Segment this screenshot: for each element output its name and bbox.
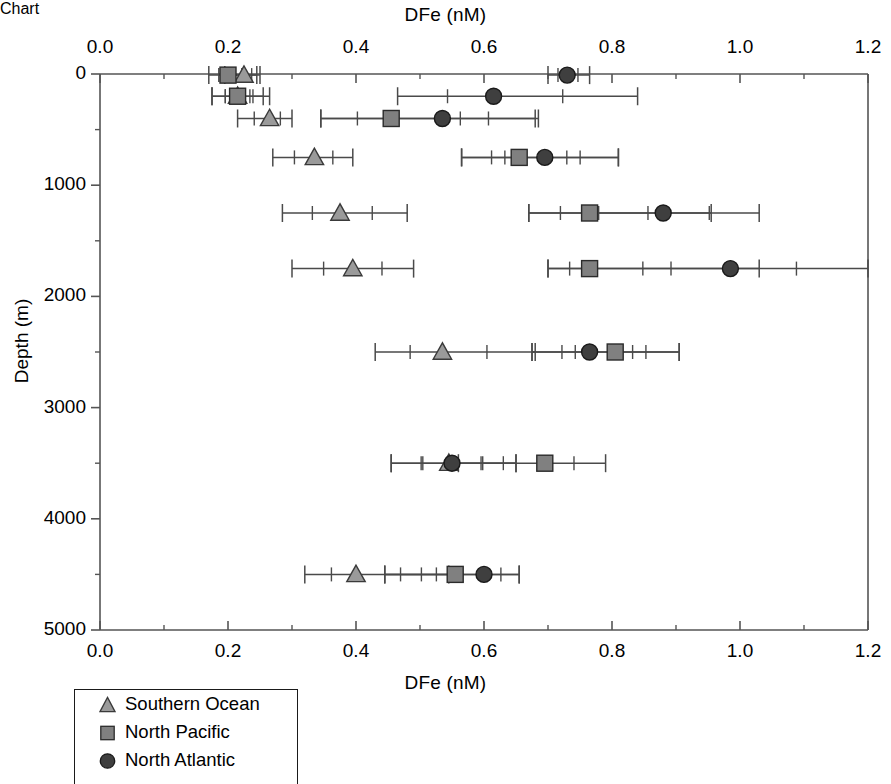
legend: Southern OceanNorth PacificNorth Atlanti… bbox=[74, 689, 298, 784]
legend-item[interactable]: North Pacific bbox=[75, 718, 297, 746]
x-tick-label-bottom: 1.0 bbox=[705, 640, 775, 662]
data-point-square bbox=[537, 455, 553, 471]
data-point-square bbox=[383, 110, 399, 126]
data-point-circle bbox=[537, 149, 553, 165]
data-point-square bbox=[582, 261, 598, 277]
data-point-circle bbox=[434, 110, 450, 126]
circle-icon bbox=[99, 752, 116, 769]
data-point-triangle bbox=[305, 148, 323, 164]
x-tick-label-bottom: 0.4 bbox=[321, 640, 391, 662]
y-tick-label: 3000 bbox=[2, 396, 86, 418]
data-point-square bbox=[447, 566, 463, 582]
y-tick-label: 4000 bbox=[2, 507, 86, 529]
error-bar bbox=[398, 87, 638, 105]
data-point-square bbox=[230, 88, 246, 104]
x-tick-label-top: 0.8 bbox=[577, 36, 647, 58]
data-point-circle bbox=[582, 344, 598, 360]
data-point-square bbox=[220, 67, 236, 83]
plot-area bbox=[0, 0, 891, 784]
x-tick-label-top: 0.2 bbox=[193, 36, 263, 58]
x-tick-label-bottom: 0.0 bbox=[65, 640, 135, 662]
data-point-triangle bbox=[347, 565, 365, 581]
error-bar bbox=[375, 343, 535, 361]
error-bar bbox=[532, 343, 679, 361]
data-point-triangle bbox=[331, 204, 349, 220]
square-icon bbox=[99, 724, 116, 741]
x-tick-label-bottom: 0.8 bbox=[577, 640, 647, 662]
x-tick-label-bottom: 1.2 bbox=[833, 640, 891, 662]
x-tick-label-top: 0.4 bbox=[321, 36, 391, 58]
error-bar bbox=[321, 109, 539, 127]
data-point-triangle bbox=[344, 259, 362, 275]
legend-item[interactable]: North Atlantic bbox=[75, 746, 297, 774]
data-point-circle bbox=[486, 88, 502, 104]
data-point-square bbox=[582, 205, 598, 221]
x-tick-label-top: 1.2 bbox=[833, 36, 891, 58]
data-point-circle bbox=[722, 261, 738, 277]
legend-item-label: North Pacific bbox=[125, 721, 230, 743]
x-tick-label-top: 1.0 bbox=[705, 36, 775, 58]
data-point-triangle bbox=[433, 343, 451, 359]
y-tick-label: 1000 bbox=[2, 173, 86, 195]
dfe-depth-profile-figure: DFe (nM) DFe (nM) Depth (m) 0.00.00.20.2… bbox=[0, 0, 891, 784]
legend-item[interactable]: Southern Ocean bbox=[75, 690, 297, 718]
data-point-square bbox=[511, 149, 527, 165]
legend-item-label: Southern Ocean bbox=[125, 693, 260, 715]
x-tick-label-bottom: 0.6 bbox=[449, 640, 519, 662]
data-point-triangle bbox=[260, 109, 278, 125]
x-tick-label-top: 0.6 bbox=[449, 36, 519, 58]
triangle-icon bbox=[99, 696, 116, 713]
y-tick-label: 0 bbox=[2, 62, 86, 84]
legend-item-label: North Atlantic bbox=[125, 749, 235, 771]
data-point-circle bbox=[476, 566, 492, 582]
error-bar bbox=[529, 204, 759, 222]
data-point-circle bbox=[655, 205, 671, 221]
data-point-square bbox=[607, 344, 623, 360]
y-tick-label: 5000 bbox=[2, 618, 86, 640]
x-tick-label-top: 0.0 bbox=[65, 36, 135, 58]
data-point-circle bbox=[444, 455, 460, 471]
x-tick-label-bottom: 0.2 bbox=[193, 640, 263, 662]
data-point-circle bbox=[559, 67, 575, 83]
y-tick-label: 2000 bbox=[2, 284, 86, 306]
